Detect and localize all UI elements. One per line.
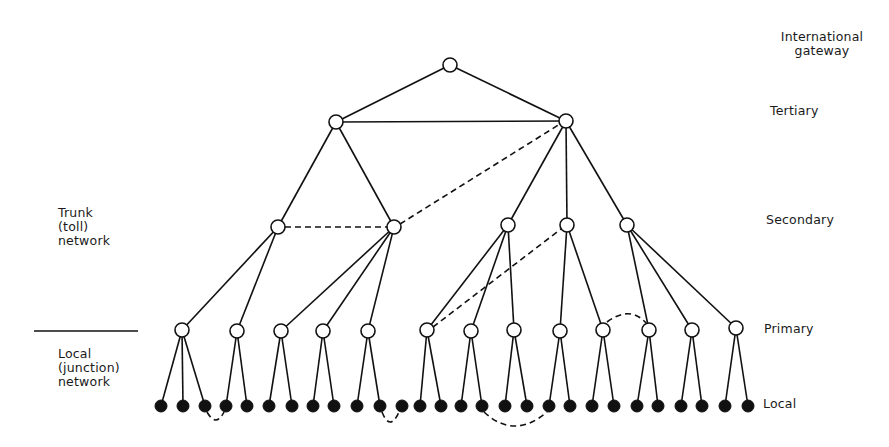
local-exchange-node (564, 400, 576, 412)
local-exchange-node (435, 400, 447, 412)
local-exchange-node (631, 400, 643, 412)
direct-route-line (207, 412, 224, 420)
local-exchange-node (476, 400, 488, 412)
secondary-exchange-node (271, 220, 285, 234)
section-label-trunk-line1: Trunk (58, 206, 110, 220)
link-line (420, 330, 427, 406)
link-line (549, 331, 560, 406)
link-line (336, 122, 394, 227)
level-label-tertiary: Tertiary (770, 104, 819, 118)
direct-route-line (382, 412, 399, 422)
link-line (323, 227, 394, 331)
link-line (649, 330, 658, 406)
direct-route-line (484, 412, 547, 426)
link-line (560, 331, 570, 406)
link-line (237, 331, 247, 406)
section-label-local-line1: Local (58, 347, 120, 361)
link-line (281, 331, 292, 406)
primary-exchange-node (685, 323, 699, 337)
link-line (226, 331, 237, 406)
local-exchange-node (286, 400, 298, 412)
link-line (508, 225, 514, 330)
link-line (461, 331, 471, 406)
link-line (505, 330, 514, 406)
local-exchange-node (220, 400, 232, 412)
link-line (336, 121, 566, 122)
solid-links (161, 65, 748, 406)
local-exchange-node (586, 400, 598, 412)
tertiary-exchange-node (329, 115, 343, 129)
local-exchange-node (199, 400, 211, 412)
link-line (603, 330, 614, 406)
international-exchange-node (443, 58, 457, 72)
link-line (182, 227, 278, 330)
local-exchange-node (177, 400, 189, 412)
level-label-international-line2: gateway (774, 44, 870, 58)
link-line (323, 331, 334, 406)
section-label-trunk-line2: (toll) (58, 220, 110, 234)
secondary-exchange-node (560, 218, 574, 232)
local-exchange-node (455, 400, 467, 412)
link-line (357, 331, 368, 406)
secondary-exchange-node (620, 218, 634, 232)
link-line (161, 330, 182, 406)
link-line (560, 225, 567, 331)
primary-exchange-node (596, 323, 610, 337)
local-exchange-node (543, 400, 555, 412)
local-exchange-node (351, 400, 363, 412)
link-line (736, 328, 748, 406)
link-line (182, 330, 183, 406)
link-line (566, 121, 627, 225)
primary-exchange-node (361, 324, 375, 338)
link-line (427, 225, 508, 330)
link-line (450, 65, 566, 121)
link-line (725, 328, 736, 406)
exchange-nodes (155, 58, 754, 412)
local-exchange-node (719, 400, 731, 412)
link-line (508, 121, 566, 225)
local-exchange-node (396, 400, 408, 412)
link-line (336, 65, 450, 122)
local-exchange-node (241, 400, 253, 412)
link-line (281, 227, 394, 331)
local-exchange-node (696, 400, 708, 412)
primary-exchange-node (729, 321, 743, 335)
section-label-local: Local (junction) network (58, 347, 120, 389)
link-line (692, 330, 702, 406)
section-label-local-line2: (junction) (58, 361, 120, 375)
level-label-local: Local (763, 397, 796, 411)
local-exchange-node (652, 400, 664, 412)
local-exchange-node (742, 400, 754, 412)
link-line (278, 122, 336, 227)
link-line (514, 330, 527, 406)
local-exchange-node (328, 400, 340, 412)
primary-exchange-node (230, 324, 244, 338)
direct-route-line (433, 229, 561, 327)
link-line (368, 331, 380, 406)
local-exchange-node (675, 400, 687, 412)
link-line (566, 121, 567, 225)
level-label-international-line1: International (774, 30, 870, 44)
secondary-exchange-node (501, 218, 515, 232)
primary-exchange-node (316, 324, 330, 338)
primary-exchange-node (642, 323, 656, 337)
primary-exchange-node (420, 323, 434, 337)
primary-exchange-node (464, 324, 478, 338)
link-line (427, 330, 441, 406)
primary-exchange-node (274, 324, 288, 338)
link-line (637, 330, 649, 406)
local-exchange-node (499, 400, 511, 412)
local-exchange-node (608, 400, 620, 412)
section-label-local-line3: network (58, 375, 120, 389)
local-exchange-node (414, 400, 426, 412)
local-exchange-node (307, 400, 319, 412)
primary-exchange-node (175, 323, 189, 337)
link-line (567, 225, 603, 330)
level-label-secondary: Secondary (766, 213, 834, 227)
direct-route-line (607, 314, 646, 323)
local-exchange-node (521, 400, 533, 412)
section-label-trunk-line3: network (58, 234, 110, 248)
network-hierarchy-diagram (0, 0, 889, 447)
link-line (313, 331, 323, 406)
tertiary-exchange-node (559, 114, 573, 128)
